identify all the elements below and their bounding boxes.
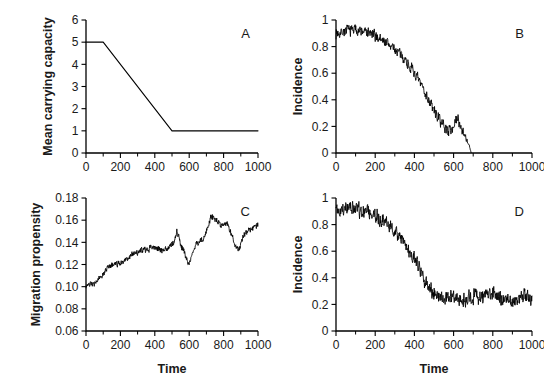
x-tick-label: 1000 [519,160,544,174]
chart-c: 0.060.080.100.120.140.160.18020040060080… [14,186,274,384]
y-tick-label: 1 [322,191,329,205]
x-tick-label: 600 [179,160,199,174]
x-tick-label: 800 [483,160,503,174]
x-tick-label: 400 [145,338,165,352]
panel-letter: A [241,26,250,41]
y-tick-label: 0.2 [312,298,329,312]
x-tick-label: 0 [333,338,340,352]
y-tick-label: 0 [322,146,329,160]
panel-a: 012345602004006008001000Mean carrying ca… [24,8,274,184]
axis-lines [86,20,258,153]
x-tick-label: 600 [179,338,199,352]
y-tick-label: 2 [72,102,79,116]
x-tick-label: 200 [110,338,130,352]
chart-b: 00.20.40.60.8102004006008001000Incidence… [288,8,544,184]
figure-container: 012345602004006008001000Mean carrying ca… [0,0,559,384]
panel-b: 00.20.40.60.8102004006008001000Incidence… [288,8,544,184]
y-tick-label: 1 [72,124,79,138]
y-tick-label: 0 [72,146,79,160]
x-tick-label: 1000 [519,338,544,352]
y-tick-label: 0 [322,324,329,338]
y-tick-label: 0.16 [55,213,79,227]
panel-letter: C [241,204,250,219]
y-tick-label: 0.8 [312,218,329,232]
x-tick-label: 200 [365,160,385,174]
panel-d: 00.20.40.60.8102004006008001000Incidence… [288,186,544,384]
y-tick-label: 1 [322,13,329,27]
x-axis-title: Time [158,362,187,376]
data-series-line [86,214,258,288]
x-tick-label: 800 [483,338,503,352]
y-tick-label: 5 [72,35,79,49]
y-axis-title: Incidence [291,58,305,116]
panel-letter: D [515,204,524,219]
x-tick-label: 400 [404,160,424,174]
y-tick-label: 3 [72,80,79,94]
y-tick-label: 0.4 [312,93,329,107]
data-series-line [336,201,532,307]
x-tick-label: 400 [404,338,424,352]
y-tick-label: 0.6 [312,244,329,258]
x-tick-label: 0 [333,160,340,174]
axis-lines [336,20,532,153]
y-tick-label: 0.18 [55,191,79,205]
y-tick-label: 0.06 [55,324,79,338]
x-tick-label: 400 [145,160,165,174]
y-tick-label: 0.4 [312,271,329,285]
chart-a: 012345602004006008001000Mean carrying ca… [24,8,274,184]
data-series-line [86,42,258,131]
x-tick-label: 800 [214,338,234,352]
y-axis-title: Mean carrying capacity [41,17,55,155]
x-tick-label: 200 [110,160,130,174]
y-tick-label: 0.2 [312,120,329,134]
panel-c: 0.060.080.100.120.140.160.18020040060080… [14,186,274,384]
chart-d: 00.20.40.60.8102004006008001000Incidence… [288,186,544,384]
x-tick-label: 1000 [245,160,272,174]
x-tick-label: 600 [444,160,464,174]
y-tick-label: 0.08 [55,302,79,316]
x-axis-title: Time [420,362,449,376]
y-tick-label: 0.8 [312,40,329,54]
y-axis-title: Incidence [291,236,305,294]
y-tick-label: 0.14 [55,236,79,250]
data-series-line [336,25,471,153]
y-tick-label: 0.10 [55,280,79,294]
x-tick-label: 0 [83,160,90,174]
axis-lines [336,198,532,331]
x-tick-label: 600 [444,338,464,352]
y-tick-label: 6 [72,13,79,27]
y-tick-label: 0.12 [55,258,79,272]
y-tick-label: 0.6 [312,66,329,80]
y-tick-label: 4 [72,58,79,72]
y-axis-title: Migration propensity [29,203,43,327]
x-tick-label: 200 [365,338,385,352]
x-tick-label: 1000 [245,338,272,352]
x-tick-label: 0 [83,338,90,352]
panel-letter: B [515,26,524,41]
x-tick-label: 800 [214,160,234,174]
